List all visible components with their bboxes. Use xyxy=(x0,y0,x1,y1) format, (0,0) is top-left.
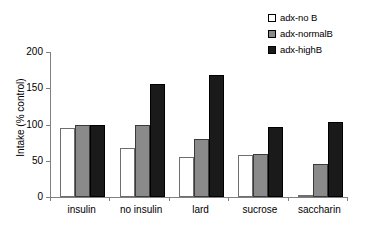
y-axis-tick-label: 200 xyxy=(26,46,43,57)
bar xyxy=(313,164,328,197)
bar xyxy=(150,84,165,197)
bar-group-bars xyxy=(120,52,165,197)
bar-group xyxy=(179,52,224,197)
bar-group xyxy=(120,52,165,197)
chart-legend: adx-no B adx-normalB adx-highB xyxy=(268,10,363,58)
x-axis-tick xyxy=(109,197,110,201)
y-axis-tick: 200 xyxy=(46,52,50,53)
bar-group-bars xyxy=(179,52,224,197)
bar-group-bars xyxy=(60,52,105,197)
bar-group-bars xyxy=(238,52,283,197)
plot-area: 050100150200 insulinno insulinlardsucros… xyxy=(50,52,348,197)
bar xyxy=(179,157,194,197)
y-axis-tick-label: 50 xyxy=(32,155,43,166)
legend-label: adx-normalB xyxy=(280,29,333,39)
bar xyxy=(328,122,343,197)
x-axis-tick xyxy=(288,197,289,201)
legend-item-adx-normalb: adx-normalB xyxy=(268,26,363,41)
bar xyxy=(60,128,75,197)
bar-group xyxy=(298,52,343,197)
bar xyxy=(238,155,253,197)
bar xyxy=(90,125,105,197)
x-axis-label: saccharin xyxy=(269,204,365,215)
y-axis-tick-label: 100 xyxy=(26,119,43,130)
x-axis-tick xyxy=(50,197,51,201)
bar-group-bars xyxy=(298,52,343,197)
bar xyxy=(75,125,90,198)
y-axis-tick: 100 xyxy=(46,125,50,126)
bar xyxy=(120,148,135,197)
bar xyxy=(194,139,209,197)
legend-label: adx-no B xyxy=(280,13,317,23)
bar-groups xyxy=(51,52,348,197)
bar xyxy=(209,75,224,197)
bar-group xyxy=(238,52,283,197)
y-axis-tick: 150 xyxy=(46,88,50,89)
y-axis-tick-label: 150 xyxy=(26,82,43,93)
x-axis-tick xyxy=(228,197,229,201)
bar-group xyxy=(60,52,105,197)
x-axis-tick xyxy=(169,197,170,201)
legend-item-adx-no-b: adx-no B xyxy=(268,10,363,25)
bar xyxy=(268,127,283,197)
x-axis-tick xyxy=(347,197,348,201)
y-axis-tick-label: 0 xyxy=(37,191,43,202)
legend-swatch-icon xyxy=(268,30,276,38)
bar xyxy=(253,154,268,198)
legend-swatch-icon xyxy=(268,14,276,22)
bar xyxy=(298,195,313,197)
bar-chart: adx-no B adx-normalB adx-highB Intake (%… xyxy=(0,0,365,233)
bar xyxy=(135,125,150,197)
x-axis-line xyxy=(50,197,348,198)
y-axis-tick: 50 xyxy=(46,161,50,162)
y-axis-title: Intake (% control) xyxy=(15,53,26,183)
